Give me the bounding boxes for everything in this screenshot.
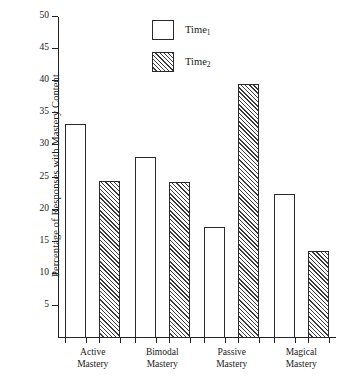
- x-axis-label-line: Active: [53, 347, 132, 359]
- x-axis-label-line: Mastery: [123, 359, 202, 371]
- x-tick: [238, 338, 239, 343]
- y-tick-50: 50: [52, 16, 58, 17]
- y-tick-15: 15: [52, 241, 58, 242]
- y-tick-20: 20: [52, 209, 58, 210]
- x-tick: [295, 338, 296, 343]
- y-tick-30: 30: [52, 144, 58, 145]
- y-tick-label-10: 10: [40, 266, 50, 279]
- x-tick: [204, 338, 205, 343]
- x-tick: [308, 338, 309, 343]
- y-tick-45: 45: [52, 48, 58, 49]
- x-axis-label-line: Bimodal: [123, 347, 202, 359]
- y-tick-40: 40: [52, 80, 58, 81]
- x-tick: [225, 338, 226, 343]
- x-tick: [259, 338, 260, 343]
- x-axis-label-line: Mastery: [53, 359, 132, 371]
- x-axis-label-magical-mastery: MagicalMastery: [262, 347, 341, 370]
- plot-area: 5101520253035404550: [58, 17, 336, 338]
- y-tick-label-45: 45: [40, 41, 50, 54]
- x-axis-label-active-mastery: ActiveMastery: [53, 347, 132, 370]
- y-tick-label-5: 5: [44, 298, 49, 311]
- y-tick-label-25: 25: [40, 170, 50, 183]
- x-tick: [274, 338, 275, 343]
- x-axis-label-line: Passive: [192, 347, 271, 359]
- y-axis-line: [58, 17, 59, 338]
- x-tick: [120, 338, 121, 343]
- y-tick-label-15: 15: [40, 234, 50, 247]
- bar-active-mastery-time1: [65, 124, 86, 338]
- bar-magical-mastery-time1: [274, 194, 295, 338]
- y-tick-5: 5: [52, 305, 58, 306]
- bar-bimodal-mastery-time2: [169, 182, 190, 338]
- y-tick-25: 25: [52, 177, 58, 178]
- x-tick: [135, 338, 136, 343]
- x-tick: [99, 338, 100, 343]
- y-tick-label-50: 50: [40, 9, 50, 22]
- x-tick: [329, 338, 330, 343]
- x-axis-label-passive-mastery: PassiveMastery: [192, 347, 271, 370]
- x-tick: [65, 338, 66, 343]
- x-tick: [156, 338, 157, 343]
- y-tick-10: 10: [52, 273, 58, 274]
- x-tick: [190, 338, 191, 343]
- bar-passive-mastery-time1: [204, 227, 225, 338]
- x-axis-label-line: Magical: [262, 347, 341, 359]
- y-tick-label-35: 35: [40, 105, 50, 118]
- bar-active-mastery-time2: [99, 181, 120, 338]
- bar-magical-mastery-time2: [308, 251, 329, 338]
- y-tick-label-40: 40: [40, 73, 50, 86]
- x-axis-label-bimodal-mastery: BimodalMastery: [123, 347, 202, 370]
- y-tick-35: 35: [52, 112, 58, 113]
- chart-figure: Percentage of Responses with Mastery Con…: [0, 0, 344, 388]
- bar-passive-mastery-time2: [238, 84, 259, 338]
- x-axis-label-line: Mastery: [192, 359, 271, 371]
- y-tick-label-30: 30: [40, 137, 50, 150]
- x-tick: [169, 338, 170, 343]
- x-axis-label-line: Mastery: [262, 359, 341, 371]
- y-tick-label-20: 20: [40, 202, 50, 215]
- bar-bimodal-mastery-time1: [135, 157, 156, 338]
- x-tick: [86, 338, 87, 343]
